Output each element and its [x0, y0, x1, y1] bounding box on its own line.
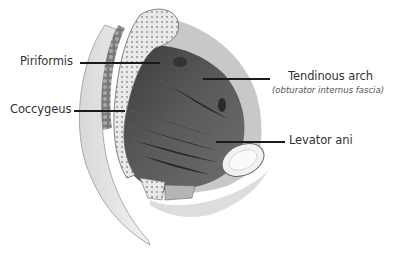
label-piriformis: Piriformis	[20, 54, 73, 68]
label-levator-ani: Levator ani	[289, 133, 353, 147]
leader-line-piriformis	[80, 62, 160, 64]
label-tendinous-arch: Tendinous arch	[288, 69, 373, 83]
label-coccygeus: Coccygeus	[10, 102, 71, 116]
label-tendinous-arch-subtitle: (obturator internus fascia)	[272, 85, 384, 95]
leader-line-coccygeus	[74, 110, 125, 112]
leader-line-levator-ani	[216, 141, 285, 143]
leader-line-tendinous-arch	[203, 78, 270, 80]
pelvic-floor-illustration	[0, 0, 403, 257]
